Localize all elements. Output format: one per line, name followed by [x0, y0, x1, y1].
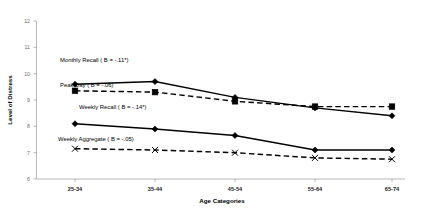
chart-figure: 12 11 10 9 8 7 6 25-34 35-44 45-54 55-64… — [0, 0, 421, 211]
x-tick-label: 45-54 — [228, 186, 243, 192]
y-tick-label: 8 — [27, 123, 30, 129]
y-tick-label: 12 — [24, 18, 30, 24]
annotation-weekly-recall: Weekly Recall ( B = -.14*) — [79, 104, 147, 110]
y-tick-label: 11 — [25, 44, 30, 50]
x-tick-label: 35-44 — [148, 186, 163, 192]
data-point-marker — [152, 89, 158, 95]
data-point-marker — [232, 99, 238, 105]
annotation-monthly-recall: Monthly Recall ( B = -.11*) — [60, 57, 129, 63]
data-point-marker — [72, 88, 78, 94]
data-point-marker — [312, 104, 318, 110]
x-tick-label: 55-64 — [308, 186, 323, 192]
chart-background — [0, 0, 421, 211]
annotation-weekly-aggregate: Weekly Aggregate ( B = -.05) — [58, 136, 134, 142]
line-chart-canvas: 12 11 10 9 8 7 6 25-34 35-44 45-54 55-64… — [0, 0, 421, 211]
data-point-marker — [389, 104, 395, 110]
y-tick-label: 9 — [27, 97, 30, 103]
y-axis-title: Level of Distress — [6, 75, 13, 125]
y-tick-label: 7 — [27, 150, 30, 156]
y-tick-label: 10 — [24, 71, 30, 77]
x-axis-title: Age Categories — [199, 197, 245, 204]
x-tick-label: 25-34 — [68, 186, 83, 192]
annotation-peak-day: Peak Day ( B = -.06) — [60, 82, 114, 88]
y-tick-label: 6 — [27, 176, 30, 182]
x-tick-label: 65-74 — [385, 186, 400, 192]
